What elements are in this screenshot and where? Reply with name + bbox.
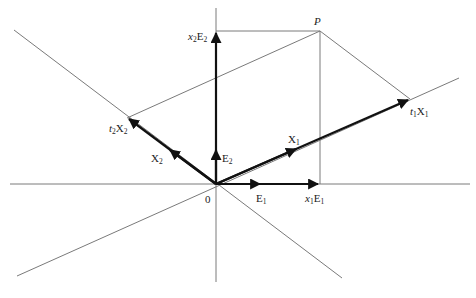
vector-X2: [170, 150, 216, 184]
x2-direction-line: [14, 30, 342, 278]
vector-diagram: P x2E2 E2 t2X2 X2 X1 t1X1 E1 x1E1 0: [0, 0, 476, 298]
label-E1: E1: [256, 192, 267, 206]
label-X1: X1: [288, 133, 300, 147]
label-t1X1: t1X1: [410, 105, 429, 119]
label-origin: 0: [205, 193, 211, 205]
label-P: P: [313, 15, 321, 27]
guide-t2X2-to-P: [127, 31, 320, 118]
label-E2: E2: [222, 152, 233, 166]
label-x2E2: x2E2: [187, 30, 207, 44]
guide-P-to-t1X1: [320, 31, 410, 99]
label-X2: X2: [151, 152, 163, 166]
label-x1E1: x1E1: [304, 192, 324, 206]
label-t2X2: t2X2: [109, 122, 128, 136]
